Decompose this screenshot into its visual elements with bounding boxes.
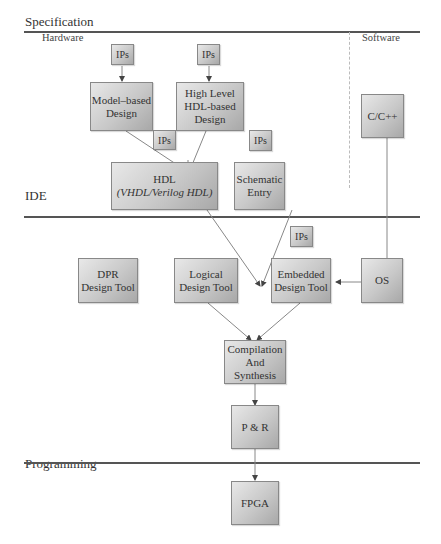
embedded-design-tool-block: EmbeddedDesign Tool — [271, 258, 331, 303]
os-block: OS — [361, 258, 403, 303]
model-based-design-block: Model–basedDesign — [90, 82, 153, 131]
fpga-block: FPGA — [231, 481, 279, 525]
ips-block-highlevel: IPs — [197, 44, 220, 65]
hdl-block: HDL(VHDL/Verilog HDL) — [111, 162, 218, 210]
schematic-entry-block: SchematicEntry — [234, 162, 285, 210]
ips-block-hdl: IPs — [153, 130, 176, 150]
ips-block-model: IPs — [111, 44, 134, 65]
ips-block-embedded: IPs — [290, 226, 313, 247]
high-level-hdl-design-block: High LevelHDL-basedDesign — [176, 82, 244, 131]
logical-design-tool-block: LogicalDesign Tool — [174, 258, 238, 303]
dpr-design-tool-block: DPRDesign Tool — [78, 258, 138, 303]
place-and-route-block: P & R — [231, 405, 279, 449]
compilation-synthesis-block: CompilationAndSynthesis — [224, 340, 286, 384]
ips-block-schematic: IPs — [249, 130, 272, 151]
c-cpp-block: C/C++ — [361, 94, 404, 138]
